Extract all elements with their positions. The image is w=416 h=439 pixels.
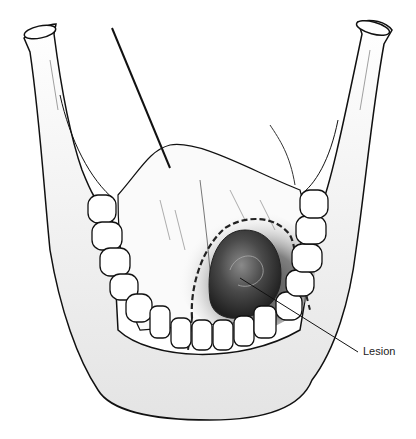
right-suture (270, 125, 295, 185)
mandible-illustration (0, 0, 416, 439)
lesion-label: Lesion (363, 345, 395, 357)
retractor-suture (112, 28, 170, 168)
